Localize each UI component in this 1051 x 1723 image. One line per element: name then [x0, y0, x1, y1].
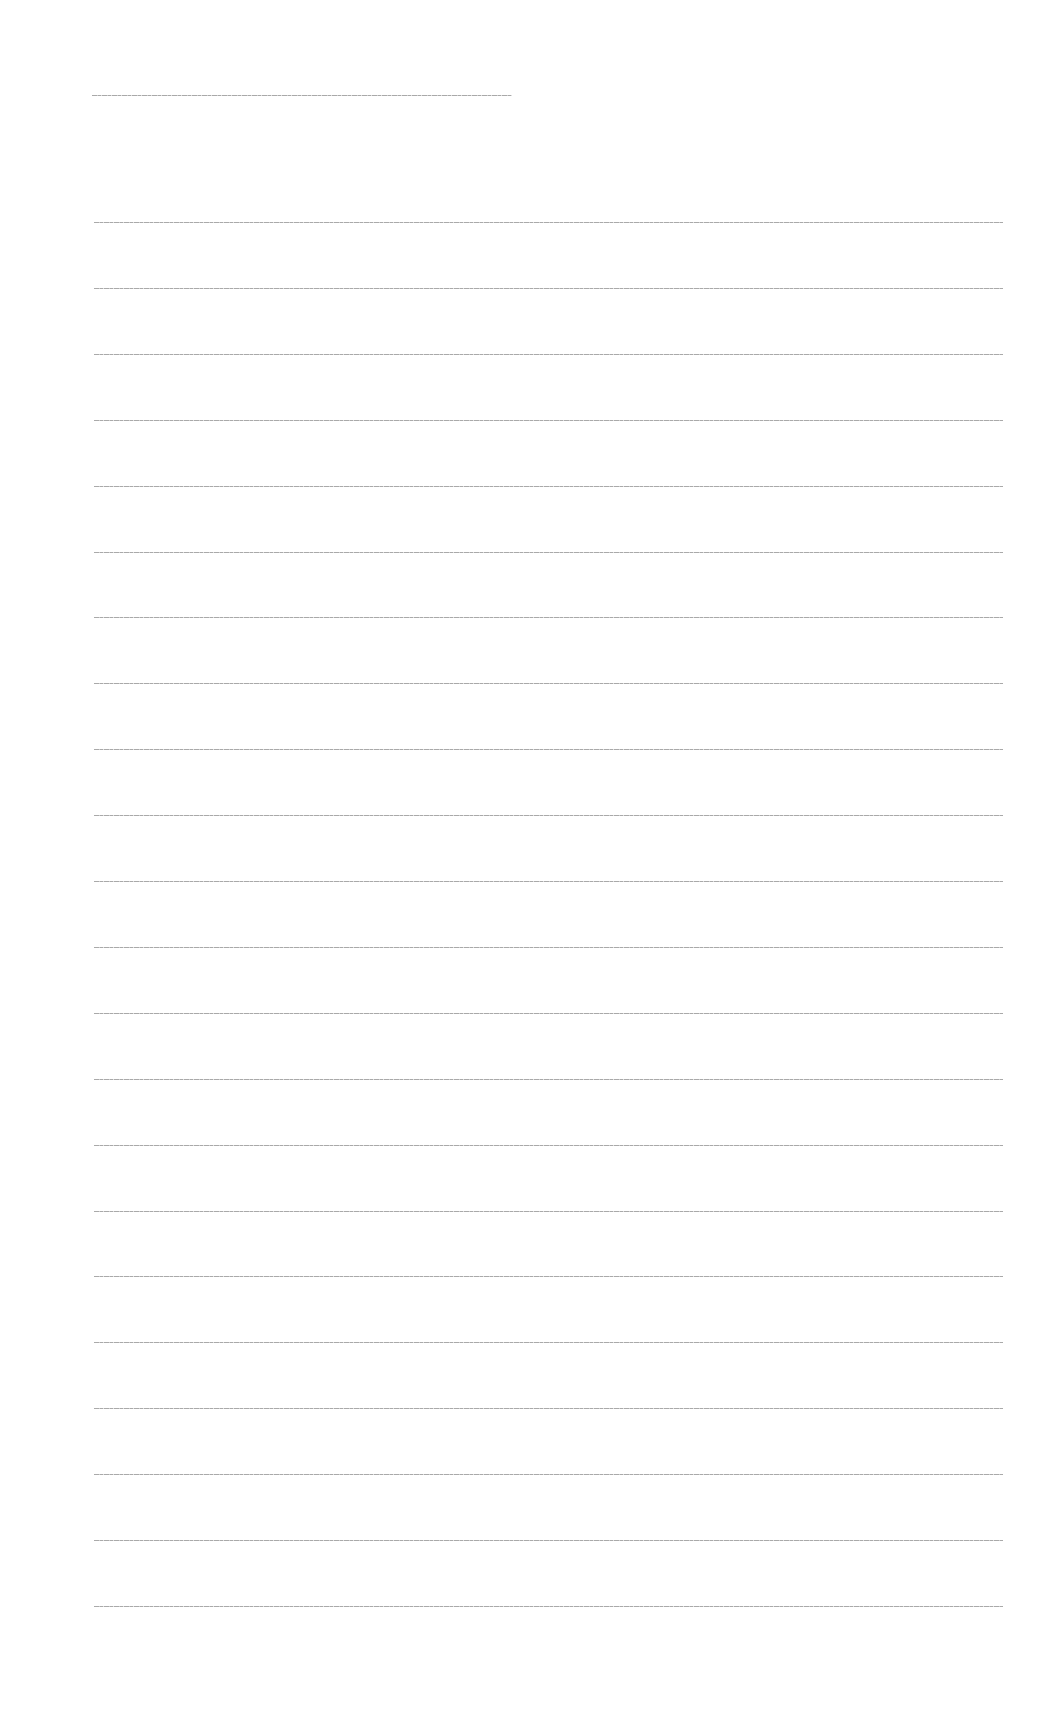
- ruled-line: [94, 947, 1003, 948]
- ruled-line: [94, 1079, 1003, 1080]
- lined-page: [0, 0, 1051, 1723]
- ruled-line: [94, 617, 1003, 618]
- ruled-line: [94, 420, 1003, 421]
- ruled-line: [94, 1474, 1003, 1475]
- ruled-line: [94, 1606, 1003, 1607]
- ruled-line: [94, 1013, 1003, 1014]
- ruled-line: [94, 354, 1003, 355]
- ruled-line: [94, 1211, 1003, 1212]
- ruled-line: [94, 881, 1003, 882]
- ruled-line: [94, 749, 1003, 750]
- ruled-line: [94, 1145, 1003, 1146]
- ruled-line: [94, 815, 1003, 816]
- ruled-line: [94, 1408, 1003, 1409]
- ruled-line: [94, 1540, 1003, 1541]
- ruled-line: [94, 486, 1003, 487]
- ruled-line: [94, 288, 1003, 289]
- ruled-line: [94, 1342, 1003, 1343]
- ruled-line: [94, 1276, 1003, 1277]
- ruled-line: [94, 222, 1003, 223]
- ruled-line: [94, 683, 1003, 684]
- ruled-line: [94, 552, 1003, 553]
- header-rule: [92, 95, 512, 96]
